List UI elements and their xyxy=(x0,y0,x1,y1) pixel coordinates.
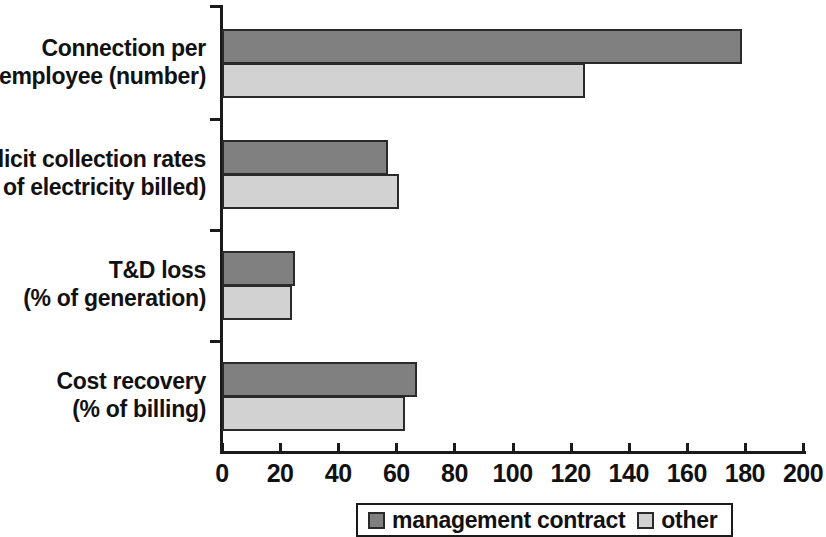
legend-swatch-2 xyxy=(637,512,654,529)
x-axis-tick-label-2: 20 xyxy=(267,458,294,488)
bar-1-series-2 xyxy=(222,63,585,98)
category-label-3: T&D loss (% of generation) xyxy=(0,256,206,312)
x-axis-tick-label-10: 180 xyxy=(725,458,765,488)
x-axis-tick-label-8: 140 xyxy=(609,458,649,488)
bar-2-series-1 xyxy=(222,140,388,175)
bar-4-series-2 xyxy=(222,396,405,431)
y-axis-top-cap xyxy=(210,5,222,8)
x-axis-tick-label-11: 200 xyxy=(783,458,823,488)
x-axis-tick-label-6: 100 xyxy=(492,458,532,488)
y-axis-tick-1 xyxy=(210,118,221,121)
x-axis-tick-7 xyxy=(570,443,573,453)
y-axis-tick-2 xyxy=(210,229,221,232)
bar-3-series-1 xyxy=(222,251,295,286)
x-axis-tick-2 xyxy=(279,443,282,453)
x-axis-tick-label-7: 120 xyxy=(550,458,590,488)
x-axis-tick-11 xyxy=(802,443,805,453)
legend-entry-2: other xyxy=(637,507,721,533)
x-axis-tick-8 xyxy=(628,443,631,453)
legend-swatch-1 xyxy=(368,512,385,529)
chart-legend: management contractother xyxy=(356,503,733,537)
category-label-4: Cost recovery (% of billing) xyxy=(0,367,206,423)
bar-2-series-2 xyxy=(222,174,399,209)
x-axis-tick-6 xyxy=(512,443,515,453)
bar-1-series-1 xyxy=(222,29,742,64)
bar-3-series-2 xyxy=(222,285,292,320)
y-axis-tick-3 xyxy=(210,340,221,343)
x-axis-tick-label-9: 160 xyxy=(667,458,707,488)
bar-4-series-1 xyxy=(222,362,417,397)
x-axis-tick-5 xyxy=(453,443,456,453)
x-axis-tick-label-1: 0 xyxy=(215,458,228,488)
x-axis-tick-label-5: 80 xyxy=(441,458,468,488)
x-axis-tick-1 xyxy=(221,443,224,453)
legend-label-1: management contract xyxy=(392,507,625,533)
legend-label-2: other xyxy=(661,507,717,533)
x-axis-tick-4 xyxy=(395,443,398,453)
x-axis-tick-9 xyxy=(686,443,689,453)
category-label-1: Connection per employee (number) xyxy=(0,34,206,90)
plot-area xyxy=(222,5,803,452)
x-axis-tick-10 xyxy=(744,443,747,453)
x-axis-tick-label-3: 40 xyxy=(325,458,352,488)
x-axis-tick-label-4: 60 xyxy=(383,458,410,488)
x-axis-tick-3 xyxy=(337,443,340,453)
category-label-2: Implicit collection rates (% of electric… xyxy=(0,145,206,201)
legend-entry-1: management contract xyxy=(368,507,629,533)
